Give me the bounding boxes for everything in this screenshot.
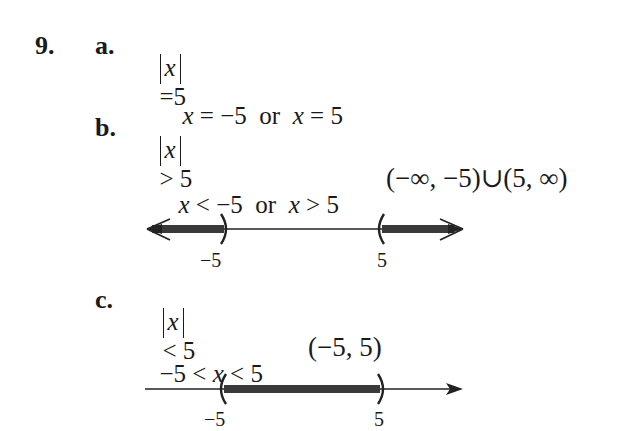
tick-label-neg5: −5 [204, 409, 225, 429]
number-line-c [0, 0, 617, 431]
tick-label-5: 5 [374, 409, 384, 429]
